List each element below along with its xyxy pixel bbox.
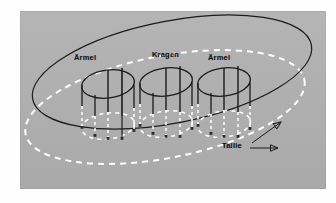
label-collar: Kragen: [152, 50, 179, 59]
inner-cylinder-collar: [138, 65, 194, 140]
figure-canvas: Ärmel Kragen Ärmel Tallie: [0, 0, 336, 203]
label-sleeve-left: Ärmel: [74, 53, 96, 62]
label-sleeve-right: Ärmel: [208, 53, 230, 62]
tallie-leader-upper: [252, 122, 281, 143]
inner-cylinder-sleeve-left: [80, 67, 136, 142]
diagram-svg: [0, 0, 336, 203]
inner-cylinder-sleeve-right: [196, 65, 252, 140]
outer-cylinder-top-ellipse: [23, 0, 321, 149]
label-waist-tallie: Tallie: [222, 141, 242, 150]
